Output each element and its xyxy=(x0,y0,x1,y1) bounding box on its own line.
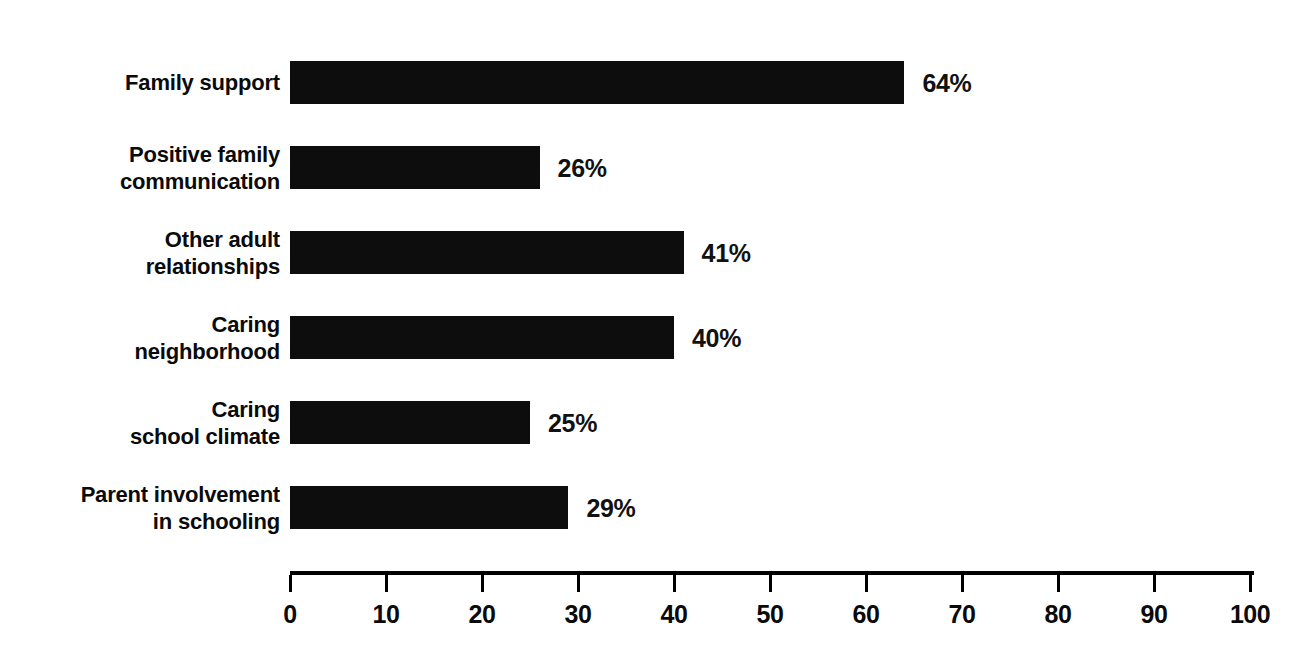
category-label-line: relationships xyxy=(0,253,280,280)
x-axis-tick xyxy=(1057,575,1060,592)
bar-value-label: 25% xyxy=(548,408,597,437)
bar-value-label: 40% xyxy=(692,323,741,352)
x-axis-tick xyxy=(1249,575,1252,592)
x-axis-tick xyxy=(769,575,772,592)
bar xyxy=(290,316,674,359)
x-axis-tick-label: 30 xyxy=(538,600,618,629)
x-axis-tick-label: 50 xyxy=(730,600,810,629)
x-axis-tick xyxy=(385,575,388,592)
bar-value-label: 26% xyxy=(558,153,607,182)
x-axis-tick xyxy=(481,575,484,592)
x-axis-tick-label: 80 xyxy=(1018,600,1098,629)
bar-value-label: 29% xyxy=(586,493,635,522)
bar-chart: Family supportPositive familycommunicati… xyxy=(0,0,1295,661)
x-axis-line xyxy=(290,571,1254,575)
x-axis-tick-label: 90 xyxy=(1114,600,1194,629)
category-label: Positive familycommunication xyxy=(0,141,280,195)
x-axis-tick-label: 40 xyxy=(634,600,714,629)
x-axis-tick-label: 60 xyxy=(826,600,906,629)
bar xyxy=(290,486,568,529)
category-label-line: Parent involvement xyxy=(0,481,280,508)
x-axis-tick-label: 10 xyxy=(346,600,426,629)
bar-value-label: 64% xyxy=(922,68,971,97)
category-label-line: communication xyxy=(0,168,280,195)
category-label-line: Family support xyxy=(0,69,280,96)
bar-row: 26% xyxy=(290,146,1295,189)
bar xyxy=(290,231,684,274)
category-label-line: in schooling xyxy=(0,508,280,535)
bar-row: 29% xyxy=(290,486,1295,529)
x-axis-tick-label: 70 xyxy=(922,600,1002,629)
category-label: Other adultrelationships xyxy=(0,226,280,280)
x-axis-tick-label: 20 xyxy=(442,600,522,629)
x-axis-tick xyxy=(577,575,580,592)
category-label-line: Other adult xyxy=(0,226,280,253)
bar-row: 40% xyxy=(290,316,1295,359)
x-axis-tick-label: 100 xyxy=(1210,600,1290,629)
bar xyxy=(290,401,530,444)
category-label-line: Caring xyxy=(0,311,280,338)
bar-row: 64% xyxy=(290,61,1295,104)
x-axis-tick xyxy=(865,575,868,592)
category-label-line: school climate xyxy=(0,423,280,450)
category-label: Caringschool climate xyxy=(0,396,280,450)
category-label-line: Positive family xyxy=(0,141,280,168)
bar-row: 25% xyxy=(290,401,1295,444)
x-axis-tick-label: 0 xyxy=(250,600,330,629)
category-label: Caringneighborhood xyxy=(0,311,280,365)
bar xyxy=(290,61,904,104)
category-label: Parent involvementin schooling xyxy=(0,481,280,535)
x-axis-tick xyxy=(961,575,964,592)
x-axis-tick xyxy=(673,575,676,592)
x-axis-tick xyxy=(1153,575,1156,592)
bar xyxy=(290,146,540,189)
x-axis-tick xyxy=(289,575,292,592)
bar-row: 41% xyxy=(290,231,1295,274)
bar-value-label: 41% xyxy=(702,238,751,267)
category-label: Family support xyxy=(0,69,280,96)
category-label-line: Caring xyxy=(0,396,280,423)
category-label-line: neighborhood xyxy=(0,338,280,365)
